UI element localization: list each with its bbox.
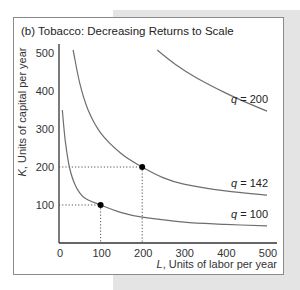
y-tick-label: 100 bbox=[36, 199, 54, 211]
curve-label: q = 100 bbox=[231, 208, 268, 220]
x-tick-label: 0 bbox=[57, 247, 63, 259]
curve-label: q = 200 bbox=[231, 93, 268, 105]
data-point bbox=[98, 202, 104, 208]
y-tick-label: 200 bbox=[36, 161, 54, 173]
x-tick-label: 100 bbox=[92, 247, 110, 259]
isoquant-curve bbox=[73, 50, 267, 195]
curve-label: q = 142 bbox=[231, 177, 268, 189]
y-axis-label: K, Units of capital per year bbox=[16, 47, 28, 176]
tick-labels: 0100200300400500100200300400500 bbox=[36, 47, 278, 259]
curve-labels: q = 100q = 142q = 200 bbox=[231, 93, 268, 220]
y-tick-label: 300 bbox=[36, 123, 54, 135]
y-tick-label: 400 bbox=[36, 85, 54, 97]
x-axis-label: L, Units of labor per year bbox=[157, 258, 278, 270]
isoquant-chart: (b) Tobacco: Decreasing Returns to Scale… bbox=[0, 0, 300, 290]
x-tick-label: 200 bbox=[134, 247, 152, 259]
data-point bbox=[139, 164, 145, 170]
y-tick-label: 500 bbox=[36, 47, 54, 59]
chart-title: (b) Tobacco: Decreasing Returns to Scale bbox=[21, 25, 234, 37]
highlighted-points bbox=[98, 164, 146, 208]
isoquant-curves bbox=[62, 50, 267, 226]
